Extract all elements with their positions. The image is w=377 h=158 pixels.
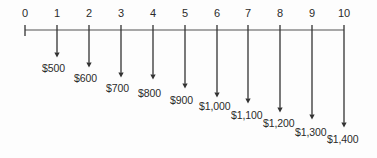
timeline-period-label: 5	[182, 8, 188, 19]
timeline-period-label: 1	[54, 8, 60, 19]
timeline-period-label: 3	[118, 8, 124, 19]
cash-flow-amount-label: $500	[42, 63, 65, 74]
cash-flow-amount-label: $900	[170, 95, 193, 106]
cash-flow-amount-label: $1,300	[295, 127, 327, 138]
cash-flow-amount-label: $1,200	[263, 118, 295, 129]
timeline-period-label: 10	[338, 8, 350, 19]
cash-flow-amount-label: $1,400	[327, 134, 359, 145]
timeline-period-label: 0	[22, 8, 28, 19]
cash-flow-amount-label: $1,100	[231, 110, 263, 121]
cash-flow-amount-label: $1,000	[199, 101, 231, 112]
timeline-period-label: 6	[214, 8, 220, 19]
cash-flow-amount-label: $800	[138, 88, 161, 99]
cash-flow-timeline-figure: 012345678910 $500$600$700$800$900$1,000$…	[0, 0, 377, 158]
timeline-period-label: 9	[309, 8, 315, 19]
timeline-period-label: 4	[150, 8, 156, 19]
timeline-period-label: 2	[86, 8, 92, 19]
timeline-period-label: 7	[245, 8, 251, 19]
timeline-period-label: 8	[277, 8, 283, 19]
cash-flow-amount-label: $600	[74, 73, 97, 84]
cash-flow-amount-label: $700	[106, 83, 129, 94]
